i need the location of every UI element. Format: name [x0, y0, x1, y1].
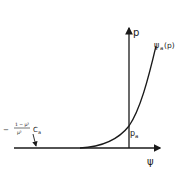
svg-text:a: a [160, 45, 163, 51]
svg-text:a: a [38, 129, 41, 135]
intercept-label: p a [130, 129, 138, 139]
asymptote-pointer-arrow [33, 134, 36, 146]
psi-a-curve [80, 46, 156, 148]
asymptote-label: − 1 − μ² μ² C a [3, 122, 41, 135]
svg-text:1 − μ²: 1 − μ² [15, 122, 29, 127]
svg-text:−: − [3, 126, 9, 134]
psi-axis-label: ψ [147, 156, 154, 167]
svg-text:ψ: ψ [154, 41, 159, 50]
curve-label: ψ a (p) [154, 41, 175, 51]
svg-text:μ²: μ² [17, 130, 22, 135]
svg-text:a: a [135, 133, 138, 139]
svg-text:(p): (p) [164, 41, 175, 50]
p-axis-label: p [133, 27, 139, 38]
psi-p-diagram: p ψ ψ a (p) p a − 1 − μ² μ² C a [0, 0, 183, 172]
